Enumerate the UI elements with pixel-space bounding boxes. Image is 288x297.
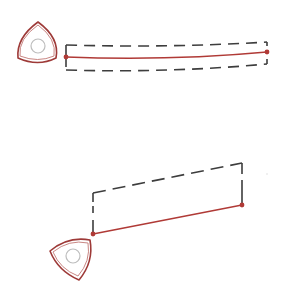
bottom-dashed-outline [93, 163, 242, 232]
diagram-canvas: Rotor with curved arm Rotor with straigh… [0, 0, 288, 297]
bottom-red-arm [93, 205, 242, 234]
top-arm-start-dot [64, 55, 69, 60]
top-red-arm [66, 52, 267, 58]
diagram-svg [0, 0, 288, 297]
bottom-hub-circle [66, 249, 80, 263]
faint-dot [266, 173, 268, 175]
top-arm-end-dot [265, 50, 270, 55]
bottom-arm-end-dot [240, 203, 245, 208]
bottom-rotor-icon [50, 239, 91, 280]
top-dashed-outline [66, 42, 267, 71]
top-hub-circle [31, 39, 45, 53]
top-diagram [18, 22, 270, 71]
bottom-diagram [50, 163, 244, 280]
bottom-arm-start-dot [91, 232, 96, 237]
top-rotor-icon [18, 22, 57, 63]
